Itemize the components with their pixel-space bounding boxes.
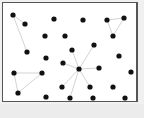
graph-node bbox=[59, 84, 64, 89]
graph-node bbox=[69, 47, 74, 52]
graph-node bbox=[128, 69, 133, 74]
graph-node bbox=[60, 60, 65, 65]
graph-node bbox=[90, 95, 95, 100]
graph-node bbox=[22, 21, 27, 26]
graph-node bbox=[80, 17, 85, 22]
edges-layer bbox=[13, 15, 124, 98]
graph-edge bbox=[14, 73, 18, 93]
graph-node bbox=[11, 70, 16, 75]
graph-node bbox=[110, 33, 115, 38]
graph-node bbox=[110, 84, 115, 89]
graph-node bbox=[43, 94, 48, 99]
graph-node bbox=[121, 15, 126, 20]
graph-node bbox=[96, 65, 101, 70]
graph-node bbox=[104, 17, 109, 22]
graph-edge bbox=[79, 68, 99, 69]
graph-node bbox=[42, 33, 47, 38]
graph-node bbox=[51, 16, 56, 21]
graph-node bbox=[10, 12, 15, 17]
graph-node bbox=[76, 66, 81, 71]
graph-edge bbox=[79, 45, 94, 69]
graph-node bbox=[87, 84, 92, 89]
graph-node bbox=[24, 49, 29, 54]
graph-node bbox=[122, 95, 127, 100]
graph-node bbox=[15, 90, 20, 95]
graph-node bbox=[39, 70, 44, 75]
graph-node bbox=[67, 95, 72, 100]
nodes-layer bbox=[10, 12, 133, 100]
network-graph bbox=[0, 0, 144, 118]
graph-node bbox=[91, 42, 96, 47]
graph-edge bbox=[18, 73, 42, 93]
graph-edge bbox=[79, 69, 90, 87]
graph-node bbox=[43, 55, 48, 60]
graph-node bbox=[116, 53, 121, 58]
graph-node bbox=[62, 33, 67, 38]
graph-edge bbox=[113, 18, 124, 36]
graph-edge bbox=[72, 50, 79, 69]
